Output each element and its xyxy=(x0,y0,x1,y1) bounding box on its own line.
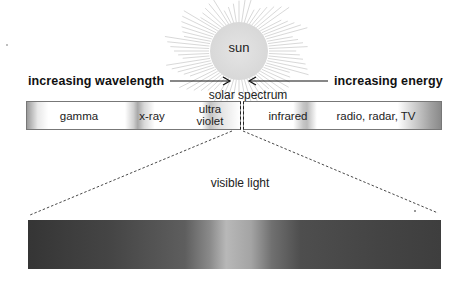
band-xray-label: x-ray xyxy=(130,110,174,122)
zoom-connector-lines xyxy=(30,131,438,215)
band-ultraviolet-line2: violet xyxy=(188,115,232,127)
band-ultraviolet-label: ultra violet xyxy=(188,103,232,127)
visible-light-bar xyxy=(28,220,441,269)
sun-label: sun xyxy=(210,40,268,55)
speck xyxy=(414,210,416,212)
band-radio-label: radio, radar, TV xyxy=(328,110,424,122)
solar-spectrum-label: solar spectrum xyxy=(193,88,303,102)
visible-light-label: visible light xyxy=(180,176,300,190)
band-gamma-label: gamma xyxy=(52,110,106,122)
increasing-energy-label: increasing energy xyxy=(334,74,443,88)
band-ultraviolet-line1: ultra xyxy=(188,103,232,115)
increasing-wavelength-label: increasing wavelength xyxy=(28,74,164,88)
speck xyxy=(6,44,8,46)
band-infrared-label: infrared xyxy=(258,110,318,122)
